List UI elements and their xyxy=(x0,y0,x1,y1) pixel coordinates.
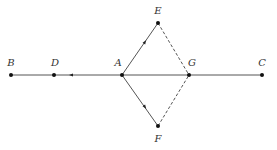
arrow-icon xyxy=(69,73,73,76)
point-label-b: B xyxy=(7,58,14,68)
segment-fg xyxy=(158,75,189,126)
segment-eg xyxy=(158,23,189,75)
segment-ae xyxy=(122,23,158,75)
point-label-e: E xyxy=(154,6,161,16)
point-label-f: F xyxy=(155,134,162,144)
point-c xyxy=(260,73,264,77)
arrows-layer xyxy=(69,40,146,108)
geometry-diagram xyxy=(0,0,277,150)
point-e xyxy=(156,21,160,25)
segments-layer xyxy=(11,23,262,126)
point-a xyxy=(120,73,124,77)
point-d xyxy=(52,73,56,77)
point-label-c: C xyxy=(258,58,266,68)
point-label-d: D xyxy=(51,58,59,68)
point-g xyxy=(187,73,191,77)
segment-af xyxy=(122,75,158,126)
point-label-a: A xyxy=(114,58,121,68)
point-label-g: G xyxy=(188,58,196,68)
point-f xyxy=(156,124,160,128)
point-b xyxy=(9,73,13,77)
